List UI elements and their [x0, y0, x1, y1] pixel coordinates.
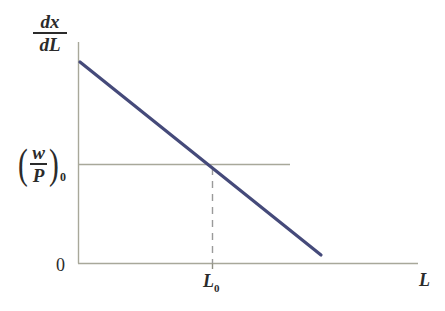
- real-wage-axis-label: ( w P ) 0: [16, 143, 66, 185]
- y-axis-title-numerator: dx: [39, 12, 62, 32]
- l0-base: L: [203, 271, 214, 291]
- wage-numerator: w: [30, 143, 47, 163]
- x-axis-title: L: [419, 271, 430, 289]
- marginal-product-of-labour-chart: dx dL ( w P ) 0 0 L0 L: [0, 0, 445, 311]
- l0-tick-label: L0: [203, 272, 220, 294]
- left-parenthesis: (: [18, 147, 28, 181]
- wage-denominator: P: [31, 165, 47, 185]
- y-axis-title-denominator: dL: [37, 34, 62, 54]
- y-axis-title: dx dL: [33, 12, 67, 54]
- marginal-product-curve: [80, 62, 321, 255]
- wage-subscript: 0: [60, 171, 66, 185]
- wage-fraction: w P: [30, 143, 47, 185]
- l0-subscript: 0: [214, 282, 220, 294]
- right-parenthesis: ): [49, 147, 59, 181]
- origin-label: 0: [56, 256, 65, 274]
